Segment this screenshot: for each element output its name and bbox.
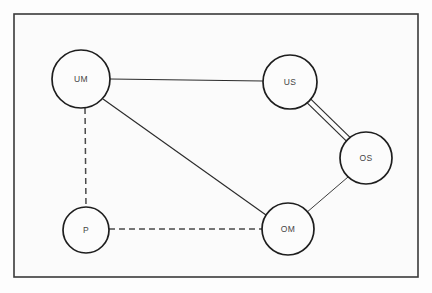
- node-label-us: US: [284, 77, 297, 87]
- node-label-um: UM: [74, 74, 88, 84]
- diagram-canvas: UMUSOSOMP: [0, 0, 432, 293]
- node-os[interactable]: OS: [340, 132, 392, 184]
- node-label-om: OM: [281, 224, 296, 234]
- node-label-os: OS: [359, 153, 372, 163]
- graph-svg: UMUSOSOMP: [0, 0, 432, 293]
- node-om[interactable]: OM: [262, 203, 314, 255]
- node-label-p: P: [83, 225, 89, 235]
- node-p[interactable]: P: [63, 207, 109, 253]
- node-um[interactable]: UM: [52, 50, 110, 108]
- node-us[interactable]: US: [263, 55, 317, 109]
